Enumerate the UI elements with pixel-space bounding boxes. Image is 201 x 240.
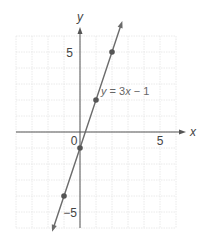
equation-tail: − 1 <box>131 85 150 97</box>
equation-label: y = 3x − 1 <box>100 85 149 97</box>
data-point <box>77 145 83 151</box>
x-tick-label-5: 5 <box>157 134 164 148</box>
y-axis-label: y <box>76 10 84 24</box>
equation-middle: = 3 <box>107 85 126 97</box>
coordinate-plane: x y 0 5 5 −5 y = 3x − 1 <box>0 0 201 240</box>
line-arrow-up-icon <box>118 21 123 28</box>
data-point <box>93 97 99 103</box>
data-point <box>109 49 115 55</box>
data-point <box>61 193 67 199</box>
axes <box>16 27 186 228</box>
y-axis-arrow-icon <box>78 27 83 34</box>
origin-label: 0 <box>71 134 78 148</box>
x-axis-label: x <box>189 125 197 139</box>
y-tick-label-5: 5 <box>66 46 73 60</box>
y-tick-label-neg5: −5 <box>63 206 77 220</box>
x-axis-arrow-icon <box>179 130 186 135</box>
